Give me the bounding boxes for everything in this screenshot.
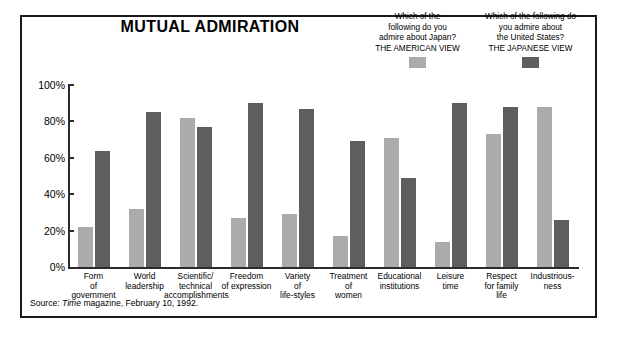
y-tick-label-80: 80% xyxy=(25,115,65,127)
legend-japanese-view-label: THE JAPANESE VIEW xyxy=(473,44,588,55)
legend-american-swatch xyxy=(409,57,426,68)
x-axis-line xyxy=(68,267,579,269)
bar-japanese-1[interactable] xyxy=(95,151,110,267)
bar-american-4[interactable] xyxy=(231,218,246,267)
bar-japanese-3[interactable] xyxy=(197,127,212,267)
x-category-label-line: life xyxy=(470,291,533,301)
y-tick-label-60: 60% xyxy=(25,152,65,164)
x-category-label-line: government xyxy=(62,291,125,301)
legend-american-question-line-3: admire about Japan? xyxy=(370,33,465,44)
y-tick-label-20: 20% xyxy=(25,225,65,237)
bar-japanese-8[interactable] xyxy=(452,103,467,267)
bar-american-6[interactable] xyxy=(333,236,348,267)
legend-japanese-question-line-1: Which of the following do xyxy=(473,12,588,23)
x-category-label-10: Industrious-ness xyxy=(521,272,584,291)
bar-american-1[interactable] xyxy=(78,227,93,267)
x-category-label-line: accomplishments xyxy=(164,291,227,301)
bar-american-3[interactable] xyxy=(180,118,195,267)
plot-area xyxy=(68,85,578,267)
bar-japanese-5[interactable] xyxy=(299,109,314,267)
bar-group-6 xyxy=(333,85,365,267)
bar-group-2 xyxy=(129,85,161,267)
x-category-label-line: women xyxy=(317,291,380,301)
bar-group-5 xyxy=(282,85,314,267)
bar-american-2[interactable] xyxy=(129,209,144,267)
bar-japanese-2[interactable] xyxy=(146,112,161,267)
chart-title: MUTUAL ADMIRATION xyxy=(60,18,360,36)
bar-american-7[interactable] xyxy=(384,138,399,267)
legend-american-view: Which of the following do you admire abo… xyxy=(370,12,465,68)
y-tick-mark-80 xyxy=(68,120,74,122)
bar-japanese-10[interactable] xyxy=(554,220,569,267)
legend-american-question-line-1: Which of the xyxy=(370,12,465,23)
legend-american-view-label: THE AMERICAN VIEW xyxy=(370,44,465,55)
bar-group-3 xyxy=(180,85,212,267)
source-prefix: Source: xyxy=(30,298,62,308)
bar-japanese-6[interactable] xyxy=(350,141,365,267)
y-tick-mark-60 xyxy=(68,157,74,159)
legend-japanese-swatch xyxy=(522,57,539,68)
bar-group-7 xyxy=(384,85,416,267)
legend-japanese-view: Which of the following do you admire abo… xyxy=(473,12,588,68)
bar-group-8 xyxy=(435,85,467,267)
x-category-label-line: ness xyxy=(521,282,584,292)
y-tick-mark-40 xyxy=(68,193,74,195)
bar-american-5[interactable] xyxy=(282,214,297,267)
y-axis-labels: 100%80%60%40%20%0% xyxy=(20,0,65,337)
bar-american-8[interactable] xyxy=(435,242,450,267)
bar-japanese-4[interactable] xyxy=(248,103,263,267)
bar-american-9[interactable] xyxy=(486,134,501,267)
bar-japanese-9[interactable] xyxy=(503,107,518,267)
y-tick-label-100: 100% xyxy=(25,79,65,91)
legend-japanese-question-line-2: you admire about xyxy=(473,23,588,34)
y-tick-label-0: 0% xyxy=(25,261,65,273)
legend-american-question-line-2: following do you xyxy=(370,23,465,34)
legend-japanese-question-line-3: the United States? xyxy=(473,33,588,44)
bar-group-1 xyxy=(78,85,110,267)
bar-american-10[interactable] xyxy=(537,107,552,267)
y-tick-label-40: 40% xyxy=(25,188,65,200)
bar-group-10 xyxy=(537,85,569,267)
bar-group-9 xyxy=(486,85,518,267)
bar-group-4 xyxy=(231,85,263,267)
bar-japanese-7[interactable] xyxy=(401,178,416,267)
y-tick-mark-20 xyxy=(68,230,74,232)
y-tick-mark-100 xyxy=(68,84,74,86)
